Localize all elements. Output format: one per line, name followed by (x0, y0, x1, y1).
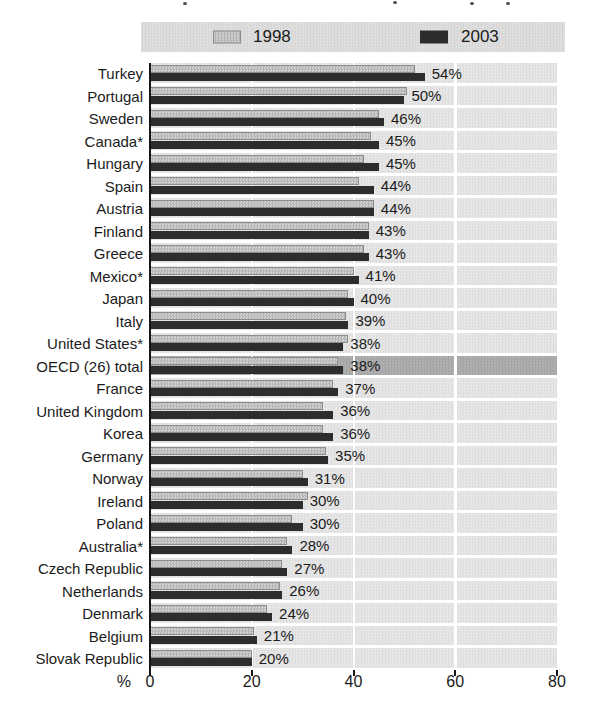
bar-2003 (150, 231, 369, 239)
bar-1998 (150, 380, 333, 388)
value-label: 44% (381, 177, 411, 194)
row-band: 45% (150, 153, 557, 173)
category-label: United States* (0, 335, 143, 352)
row-band: 20% (150, 648, 557, 668)
bar-2003 (150, 591, 282, 599)
chart-row-hungary: Hungary45% (0, 153, 589, 176)
row-band: 54% (150, 63, 557, 83)
row-band: 37% (150, 378, 557, 398)
value-label: 45% (386, 154, 416, 171)
value-label: 36% (340, 424, 370, 441)
bar-1998 (150, 515, 292, 523)
category-label: Japan (0, 290, 143, 307)
row-band: 39% (150, 311, 557, 331)
value-label: 46% (391, 109, 421, 126)
gridline (353, 581, 356, 601)
category-label: Norway (0, 470, 143, 487)
row-band: 36% (150, 423, 557, 443)
chart-row-france: France37% (0, 378, 589, 401)
bar-2003 (150, 298, 354, 306)
row-band: 30% (150, 513, 557, 533)
value-label: 37% (345, 379, 375, 396)
bar-2003 (150, 73, 425, 81)
legend-swatch-2003 (420, 31, 448, 44)
chart-row-sweden: Sweden46% (0, 108, 589, 131)
legend: 1998 2003 (141, 22, 565, 52)
category-label: OECD (26) total (0, 357, 143, 374)
category-label: Germany (0, 447, 143, 464)
value-label: 44% (381, 199, 411, 216)
chart-row-greece: Greece43% (0, 243, 589, 266)
cropped-title-fragment (470, 2, 474, 5)
gridline (454, 266, 457, 286)
bar-2003 (150, 411, 333, 419)
row-band: 50% (150, 86, 557, 106)
category-label: Slovak Republic (0, 650, 143, 667)
bar-2003 (150, 523, 303, 531)
bar-1998 (150, 132, 371, 140)
row-band: 30% (150, 491, 557, 511)
bar-2003 (150, 208, 374, 216)
bar-2003 (150, 636, 257, 644)
category-label: Greece (0, 245, 143, 262)
row-band: 21% (150, 626, 557, 646)
cropped-title-fragment (393, 1, 397, 4)
category-label: Australia* (0, 537, 143, 554)
gridline (353, 558, 356, 578)
gridline (454, 288, 457, 308)
bar-1998 (150, 560, 282, 568)
value-label: 26% (289, 582, 319, 599)
gridline (454, 558, 457, 578)
row-band: 28% (150, 536, 557, 556)
bar-1998 (150, 582, 280, 590)
gridline (454, 491, 457, 511)
category-label: Turkey (0, 65, 143, 82)
legend-label-1998: 1998 (253, 27, 291, 47)
row-band: 38% (150, 333, 557, 353)
x-axis-unit-label: % (117, 673, 131, 691)
gridline (454, 603, 457, 623)
category-label: Italy (0, 312, 143, 329)
chart-row-australia: Australia*28% (0, 536, 589, 559)
value-label: 50% (411, 87, 441, 104)
gridline (454, 311, 457, 331)
gridline (454, 423, 457, 443)
gridline (353, 536, 356, 556)
chart-row-oecd-26-total: OECD (26) total38% (0, 356, 589, 379)
chart-row-netherlands: Netherlands26% (0, 581, 589, 604)
chart-row-slovak-republic: Slovak Republic20% (0, 648, 589, 671)
category-label: Czech Republic (0, 560, 143, 577)
value-label: 21% (264, 627, 294, 644)
chart-row-czech-republic: Czech Republic27% (0, 558, 589, 581)
bar-2003 (150, 321, 348, 329)
bar-1998 (150, 267, 354, 275)
category-label: Belgium (0, 627, 143, 644)
gridline (353, 648, 356, 668)
gridline (454, 108, 457, 128)
row-band-highlighted: 38% (150, 356, 557, 376)
category-label: France (0, 380, 143, 397)
bar-1998 (150, 492, 308, 500)
value-label: 27% (294, 559, 324, 576)
value-label: 36% (340, 402, 370, 419)
bar-1998 (150, 650, 252, 658)
row-band: 44% (150, 198, 557, 218)
gridline (454, 513, 457, 533)
category-label: Mexico* (0, 267, 143, 284)
bar-1998 (150, 290, 348, 298)
value-label: 30% (310, 514, 340, 531)
gridline (353, 468, 356, 488)
gridline (454, 581, 457, 601)
value-label: 35% (335, 447, 365, 464)
chart-row-norway: Norway31% (0, 468, 589, 491)
y-axis-line (149, 63, 151, 676)
gridline (454, 198, 457, 218)
gridline (454, 468, 457, 488)
row-band: 46% (150, 108, 557, 128)
chart-row-germany: Germany35% (0, 446, 589, 469)
gridline (353, 603, 356, 623)
bar-2003 (150, 186, 374, 194)
chart-row-ireland: Ireland30% (0, 491, 589, 514)
bar-1998 (150, 425, 323, 433)
value-label: 40% (361, 289, 391, 306)
